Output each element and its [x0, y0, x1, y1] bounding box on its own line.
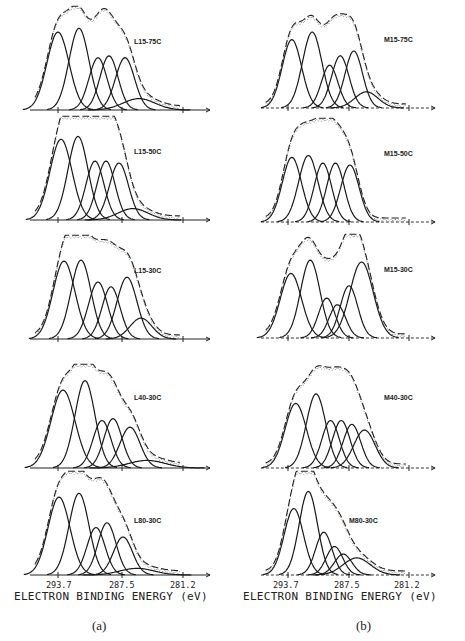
- envelope-fit-curve: [266, 14, 406, 104]
- spectra-canvas: L15-75CL15-50CL15-30CL40-30CL80-30CM15-7…: [0, 0, 465, 641]
- fitted-component-peak: [84, 419, 142, 468]
- raw-spectrum-trace: [35, 236, 180, 338]
- sample-label: L15-30C: [134, 267, 161, 274]
- spectrum-m80-30c: M80-30C: [261, 471, 435, 578]
- sample-label: M80-30C: [349, 517, 378, 524]
- fitted-component-peak: [26, 139, 96, 219]
- fitted-component-peak: [78, 523, 136, 575]
- sample-label: M15-50C: [384, 150, 413, 157]
- x-axis-label-a: ELECTRON BINDING ENERGY (eV): [14, 590, 208, 603]
- raw-spectrum-trace: [35, 7, 180, 108]
- fitted-component-peak: [68, 282, 129, 339]
- xps-figure: L15-75CL15-50CL15-30CL40-30CL80-30CM15-7…: [0, 0, 465, 641]
- panel-caption-a: (a): [92, 618, 106, 633]
- panel-caption-b: (b): [356, 618, 371, 633]
- envelope-fit-curve: [266, 471, 406, 571]
- spectrum-l15-50c: L15-50C: [26, 116, 210, 223]
- envelope-fit-curve: [35, 235, 180, 335]
- tick-label-a-3: 281.2: [170, 580, 196, 590]
- tick-label-a-1: 293.7: [46, 580, 72, 590]
- fitted-component-peak: [263, 509, 325, 575]
- spectrum-l15-30c: L15-30C: [29, 235, 210, 342]
- fitted-component-peak: [25, 390, 102, 467]
- spectrum-l80-30c: L80-30C: [24, 471, 210, 578]
- spectrum-m15-30c: M15-30C: [257, 234, 435, 341]
- spectrum-m15-75c: M15-75C: [261, 14, 435, 111]
- fitted-component-peak: [279, 491, 338, 574]
- envelope-fit-curve: [35, 116, 180, 216]
- fitted-component-peak: [29, 261, 99, 338]
- fitted-component-peak: [89, 163, 150, 220]
- tick-label-b-2: 287.5: [334, 580, 360, 590]
- raw-spectrum-trace: [35, 365, 180, 465]
- envelope-fit-curve: [35, 6, 180, 105]
- tick-label-a-2: 287.5: [109, 580, 135, 590]
- sample-label: M40-30C: [384, 394, 413, 401]
- fitted-component-peak: [261, 40, 323, 108]
- sample-label: M15-75C: [384, 36, 413, 43]
- sample-label: L15-50C: [134, 148, 161, 155]
- tick-label-b-1: 293.7: [273, 580, 299, 590]
- sample-label: L15-75C: [134, 38, 161, 45]
- fitted-component-peak: [321, 165, 380, 222]
- fitted-component-peak: [262, 403, 330, 467]
- fitted-component-peak: [83, 568, 192, 575]
- tick-label-b-3: 281.2: [394, 580, 420, 590]
- envelope-fit-curve: [266, 234, 406, 334]
- panel-b-axis-labels: 293.7 287.5 281.2 ELECTRON BINDING ENERG…: [243, 580, 437, 633]
- spectra-plots: L15-75CL15-50CL15-30CL40-30CL80-30CM15-7…: [23, 6, 435, 578]
- spectrum-m15-50c: M15-50C: [261, 118, 435, 225]
- panel-a-axis-labels: 293.7 287.5 281.2 ELECTRON BINDING ENERG…: [14, 580, 208, 633]
- spectrum-l15-75c: L15-75C: [23, 6, 210, 113]
- envelope-fit-curve: [35, 364, 180, 462]
- envelope-fit-curve: [266, 366, 406, 464]
- x-axis-label-b: ELECTRON BINDING ENERGY (eV): [243, 590, 437, 603]
- fitted-component-peak: [295, 163, 351, 222]
- sample-label: M15-30C: [384, 266, 413, 273]
- sample-label: L40-30C: [134, 394, 161, 401]
- fitted-component-peak: [324, 262, 398, 338]
- fitted-component-peak: [89, 460, 204, 468]
- sample-label: L80-30C: [134, 517, 161, 524]
- spectrum-m40-30c: M40-30C: [261, 366, 435, 471]
- fitted-component-peak: [88, 99, 190, 110]
- spectrum-l40-30c: L40-30C: [25, 364, 210, 471]
